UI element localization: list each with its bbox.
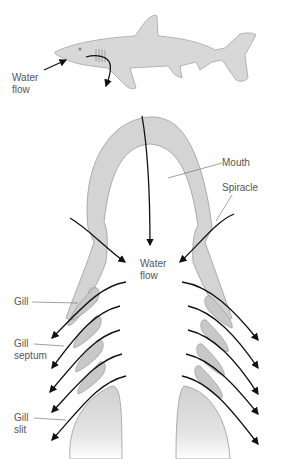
water-flow-line2: flow <box>140 270 166 282</box>
mouth-label: Mouth <box>222 157 250 169</box>
gill-septum-line2: septum <box>14 350 47 362</box>
water-flow-label: Water flow <box>140 258 166 282</box>
gill-slit-line1: Gill <box>14 412 28 424</box>
shark-water-flow-line1: Water <box>12 72 38 84</box>
shark-gill-diagram <box>0 0 295 459</box>
gill-septum-label: Gill septum <box>14 338 47 362</box>
left-lower-jaw <box>70 386 122 459</box>
gill-label: Gill <box>14 296 28 308</box>
gill-slit-label: Gill slit <box>14 412 28 436</box>
gill-septum-line1: Gill <box>14 338 47 350</box>
water-flow-line1: Water <box>140 258 166 270</box>
shark-illustration <box>44 15 256 89</box>
gill-slit-line2: slit <box>14 424 28 436</box>
shark-water-flow-label: Water flow <box>12 72 38 96</box>
spiracle-label: Spiracle <box>222 182 258 194</box>
shark-water-flow-line2: flow <box>12 84 38 96</box>
